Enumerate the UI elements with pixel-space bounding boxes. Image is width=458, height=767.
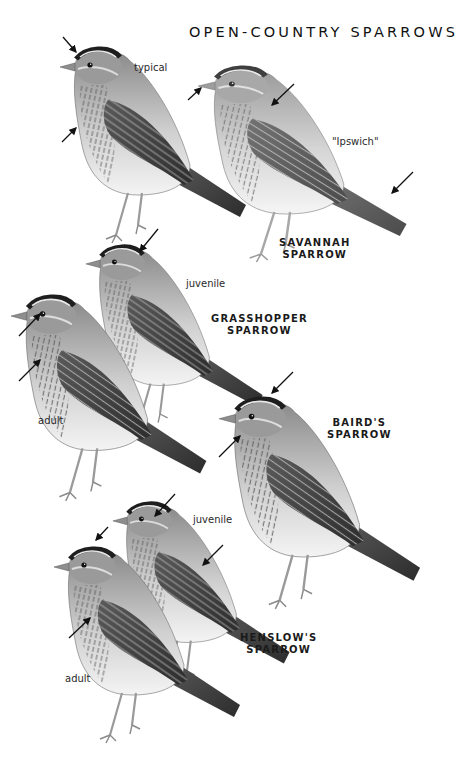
species-name-line2: SPARROW bbox=[211, 325, 308, 337]
species-name-bairds: BAIRD'S SPARROW bbox=[327, 417, 392, 441]
form-label-ipswich: "Ipswich" bbox=[332, 136, 379, 147]
form-label-henslows-juvenile: juvenile bbox=[193, 514, 232, 525]
species-name-line1: BAIRD'S bbox=[327, 417, 392, 429]
species-name-line2: SPARROW bbox=[240, 644, 317, 656]
species-name-line1: HENSLOW'S bbox=[240, 632, 317, 644]
species-name-line1: GRASSHOPPER bbox=[211, 313, 308, 325]
plate-title: OPEN-COUNTRY SPARROWS bbox=[189, 24, 458, 40]
species-name-line1: SAVANNAH bbox=[279, 237, 351, 249]
form-label-grasshopper-adult: adult bbox=[38, 415, 64, 426]
species-name-line2: SPARROW bbox=[279, 249, 351, 261]
species-name-savannah: SAVANNAH SPARROW bbox=[279, 237, 351, 261]
form-label-grasshopper-juvenile: juvenile bbox=[186, 278, 225, 289]
species-name-line2: SPARROW bbox=[327, 429, 392, 441]
savannah-sparrow-ipswich-illustration bbox=[198, 68, 406, 262]
form-label-henslows-adult: adult bbox=[65, 673, 91, 684]
form-label-typical: typical bbox=[134, 62, 167, 73]
species-name-grasshopper: GRASSHOPPER SPARROW bbox=[211, 313, 308, 337]
species-name-henslows: HENSLOW'S SPARROW bbox=[240, 632, 317, 656]
